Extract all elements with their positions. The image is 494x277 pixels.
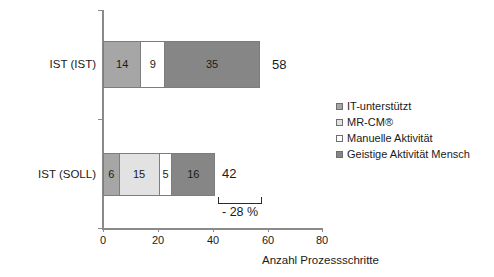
legend-swatch-icon xyxy=(336,103,343,110)
x-axis-tick-label-40: 40 xyxy=(207,234,219,246)
bar-segment-value: 9 xyxy=(150,59,156,70)
category-label-text: IST (SOLL) xyxy=(38,168,96,180)
bar-ist-soll: 6 15 5 16 xyxy=(103,153,215,196)
bar-segment-value: 35 xyxy=(206,59,218,70)
bar-segment-geistige-aktivitaet-mensch: 16 xyxy=(171,153,215,196)
x-axis-tick xyxy=(103,228,104,232)
x-axis-tick-label-60: 60 xyxy=(262,234,274,246)
bar-segment-it-unterstuetzt: 14 xyxy=(103,41,141,88)
bar-segment-value: 6 xyxy=(108,169,114,180)
stacked-bar-chart: 0 20 40 60 80 IST (IST) IST (SOLL) 14 9 … xyxy=(0,0,494,277)
legend-item-it-unterstuetzt[interactable]: IT-unterstützt xyxy=(336,101,470,112)
x-axis-tick xyxy=(158,228,159,232)
bar-segment-value: 14 xyxy=(116,59,128,70)
y-axis-tick xyxy=(98,119,102,120)
legend-item-label: Manuelle Aktivität xyxy=(347,133,433,144)
legend-item-manuelle-aktivitaet[interactable]: Manuelle Aktivität xyxy=(336,133,470,144)
bar-segment-value: 5 xyxy=(162,169,168,180)
x-axis-tick-label-80: 80 xyxy=(316,234,328,246)
legend-item-label: Geistige Aktivität Mensch xyxy=(347,149,470,160)
legend-item-geistige-aktivitaet-mensch[interactable]: Geistige Aktivität Mensch xyxy=(336,149,470,160)
x-axis-title: Anzahl Prozessschritte xyxy=(262,254,379,266)
x-axis-tick-label-20: 20 xyxy=(152,234,164,246)
bar-total-label-ist-soll: 42 xyxy=(222,166,236,181)
legend-item-label: IT-unterstützt xyxy=(347,101,411,112)
delta-bracket xyxy=(218,197,262,204)
bar-segment-manuelle-aktivitaet: 9 xyxy=(140,41,165,88)
x-axis-tick xyxy=(268,228,269,232)
legend-item-mr-cm[interactable]: MR-CM® xyxy=(336,117,470,128)
bar-segment-manuelle-aktivitaet: 5 xyxy=(159,153,173,196)
legend-item-label: MR-CM® xyxy=(347,117,393,128)
chart-legend: IT-unterstützt MR-CM® Manuelle Aktivität… xyxy=(336,101,470,160)
bar-segment-it-unterstuetzt: 6 xyxy=(103,153,120,196)
y-axis-tick xyxy=(98,10,102,11)
x-axis-tick-label-0: 0 xyxy=(100,234,106,246)
bar-total-label-ist-ist: 58 xyxy=(272,57,286,72)
x-axis-tick xyxy=(322,228,323,232)
y-axis-category-label-soll: IST (SOLL) xyxy=(0,168,96,182)
legend-swatch-icon xyxy=(336,119,343,126)
legend-swatch-icon xyxy=(336,135,343,142)
y-axis-category-label-ist: IST (IST) xyxy=(0,58,96,72)
bar-segment-mr-cm: 15 xyxy=(119,153,160,196)
x-axis-tick xyxy=(213,228,214,232)
bar-ist-ist: 14 9 35 xyxy=(103,41,260,88)
bar-segment-value: 16 xyxy=(187,169,199,180)
bar-segment-geistige-aktivitaet-mensch: 35 xyxy=(164,41,260,88)
bar-segment-value: 15 xyxy=(133,169,145,180)
y-axis-tick xyxy=(98,228,102,229)
legend-swatch-icon xyxy=(336,151,343,158)
delta-bracket-label: - 28 % xyxy=(222,205,258,219)
category-label-text: IST (IST) xyxy=(50,58,96,70)
